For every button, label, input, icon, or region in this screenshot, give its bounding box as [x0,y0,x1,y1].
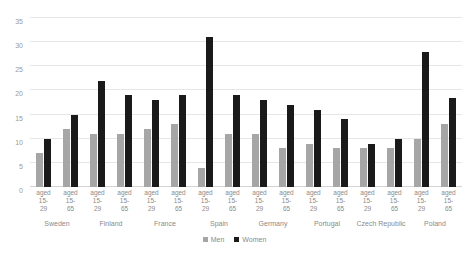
bar-men[interactable] [252,134,259,187]
bar-women[interactable] [125,95,132,187]
x-age-label: aged15-29 [354,189,381,215]
legend-swatch-icon [203,237,208,242]
bar-men[interactable] [414,139,421,187]
age-group [84,18,111,187]
bar-men[interactable] [225,134,232,187]
x-axis-age-labels: aged15-29aged15-65aged15-29aged15-65aged… [30,189,462,215]
age-group [57,18,84,187]
country-group [408,18,462,187]
bar-chart: 05101520253035 aged15-29aged15-65aged15-… [0,0,469,255]
plot-area [30,18,462,187]
bar-women[interactable] [449,98,456,187]
age-group [192,18,219,187]
x-country-slot: aged15-29aged15-65 [192,189,246,215]
legend-swatch-icon [234,237,239,242]
x-country-slot: aged15-29aged15-65 [408,189,462,215]
country-label: Finland [84,218,138,230]
x-country-slot: aged15-29aged15-65 [84,189,138,215]
bar-men[interactable] [117,134,124,187]
bar-men[interactable] [306,144,313,187]
bar-men[interactable] [198,168,205,187]
x-age-label: aged15-65 [57,189,84,215]
x-age-label: aged15-65 [327,189,354,215]
bar-women[interactable] [260,100,267,187]
age-group [246,18,273,187]
x-age-label: aged15-29 [300,189,327,215]
legend-item-men[interactable]: Men [203,236,225,243]
x-age-label: aged15-65 [219,189,246,215]
age-group [354,18,381,187]
country-group [84,18,138,187]
age-group [300,18,327,187]
x-age-label: aged15-65 [111,189,138,215]
age-group [111,18,138,187]
country-label: Sweden [30,218,84,230]
x-age-label: aged15-65 [381,189,408,215]
x-age-label: aged15-29 [84,189,111,215]
x-country-slot: aged15-29aged15-65 [354,189,408,215]
country-label: Poland [408,218,462,230]
country-group [138,18,192,187]
country-group [354,18,408,187]
x-country-slot: aged15-29aged15-65 [246,189,300,215]
bar-women[interactable] [314,110,321,187]
country-label: Spain [192,218,246,230]
country-group [192,18,246,187]
bar-women[interactable] [368,144,375,187]
x-age-label: aged15-29 [192,189,219,215]
chart-legend: MenWomen [0,236,469,243]
age-group [408,18,435,187]
bar-women[interactable] [341,119,348,187]
bar-women[interactable] [206,37,213,187]
country-label: France [138,218,192,230]
x-axis-country-labels: SwedenFinlandFranceSpainGermanyPortugalC… [30,218,462,230]
bar-men[interactable] [360,148,367,187]
bar-men[interactable] [63,129,70,187]
bar-men[interactable] [387,148,394,187]
age-group [327,18,354,187]
country-group [246,18,300,187]
bar-women[interactable] [71,115,78,187]
x-age-label: aged15-29 [246,189,273,215]
age-group [219,18,246,187]
x-age-label: aged15-65 [273,189,300,215]
bar-men[interactable] [279,148,286,187]
bar-women[interactable] [422,52,429,187]
bar-women[interactable] [44,139,51,187]
bar-women[interactable] [233,95,240,187]
x-age-label: aged15-29 [408,189,435,215]
bar-women[interactable] [395,139,402,187]
country-label: Germany [246,218,300,230]
bar-men[interactable] [36,153,43,187]
age-group [435,18,462,187]
bar-men[interactable] [333,148,340,187]
x-country-slot: aged15-29aged15-65 [138,189,192,215]
bar-women[interactable] [152,100,159,187]
x-country-slot: aged15-29aged15-65 [300,189,354,215]
bar-men[interactable] [144,129,151,187]
x-country-slot: aged15-29aged15-65 [30,189,84,215]
country-label: Czech Republic [354,218,408,230]
age-group [165,18,192,187]
age-group [273,18,300,187]
legend-item-women[interactable]: Women [234,236,266,243]
legend-label: Women [242,236,266,243]
country-label: Portugal [300,218,354,230]
x-age-label: aged15-29 [138,189,165,215]
bar-women[interactable] [287,105,294,187]
bar-men[interactable] [441,124,448,187]
x-age-label: aged15-65 [435,189,462,215]
bar-women[interactable] [179,95,186,187]
age-group [30,18,57,187]
bar-groups [30,18,462,187]
x-age-label: aged15-29 [30,189,57,215]
country-group [30,18,84,187]
country-group [300,18,354,187]
bar-women[interactable] [98,81,105,187]
age-group [138,18,165,187]
legend-label: Men [211,236,225,243]
bar-men[interactable] [90,134,97,187]
age-group [381,18,408,187]
y-axis: 05101520253035 [0,18,28,187]
bar-men[interactable] [171,124,178,187]
